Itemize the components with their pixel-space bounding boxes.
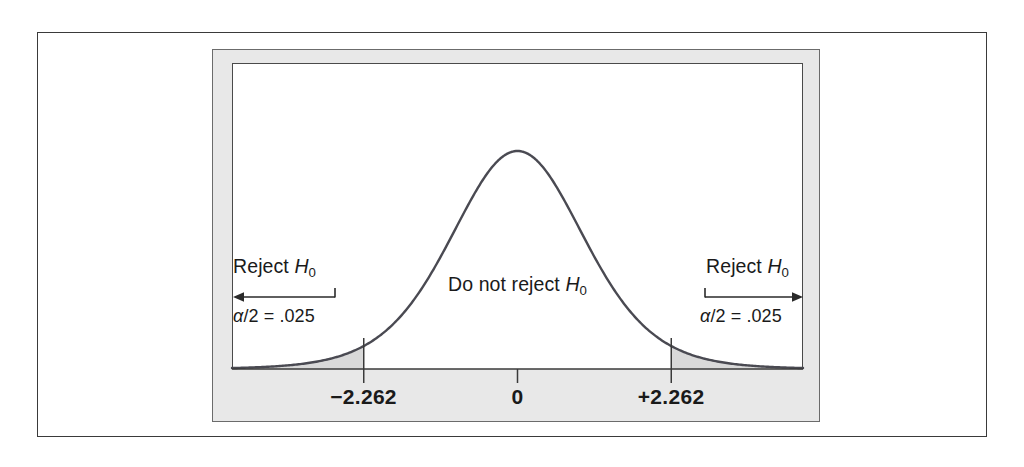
left-reject-label: Reject H0 [233,257,316,279]
tick-label-negative-critical: −2.262 [330,386,397,407]
do-not-reject-hypothesis-subscript: 0 [580,283,587,298]
tick-label-zero: 0 [512,386,524,407]
left-reject-text: Reject [233,255,289,277]
right-reject-text: Reject [706,255,762,277]
left-alpha-label: α/2 = .025 [233,307,315,325]
do-not-reject-hypothesis-symbol: H [565,273,579,295]
do-not-reject-label: Do not reject H0 [448,275,587,297]
right-alpha-label: α/2 = .025 [700,307,782,325]
left-alpha-value: /2 = .025 [243,306,314,326]
tick-label-positive-critical: +2.262 [638,386,705,407]
right-alpha-value: /2 = .025 [710,306,781,326]
left-reject-hypothesis-symbol: H [294,255,308,277]
right-reject-hypothesis-symbol: H [767,255,781,277]
right-reject-label: Reject H0 [706,257,789,279]
do-not-reject-text: Do not reject [448,273,560,295]
right-alpha-symbol: α [700,306,710,326]
left-reject-hypothesis-subscript: 0 [309,265,316,280]
left-alpha-symbol: α [233,306,243,326]
right-reject-hypothesis-subscript: 0 [782,265,789,280]
